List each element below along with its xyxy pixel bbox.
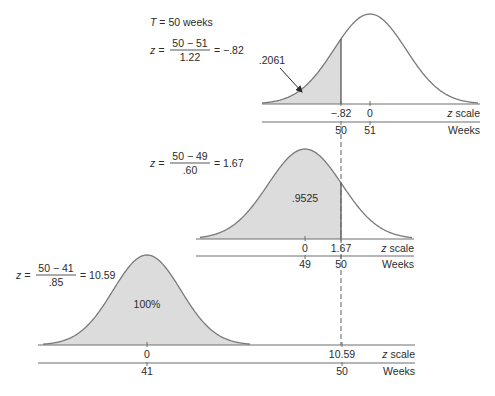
weeks-tick-label: 49 (299, 258, 311, 270)
normal-distribution-diagram: T = 50 weeks z =50 − 511.22= −.82z =50 −… (0, 0, 495, 396)
weeks-label: Weeks (448, 124, 480, 136)
z-formula: z =50 − 41.85= 10.59 (15, 262, 115, 288)
formula-result: = 10.59 (80, 269, 115, 281)
formula-denominator: .85 (49, 276, 64, 288)
shaded-probability-area (262, 39, 341, 104)
z-formulas: z =50 − 511.22= −.82z =50 − 49.60= 1.67z… (15, 37, 244, 288)
z-tick-label: 0 (144, 348, 150, 360)
deadline-label: T = 50 weeks (150, 16, 213, 28)
z-formula: z =50 − 511.22= −.82 (149, 37, 244, 63)
weeks-label: Weeks (383, 365, 415, 377)
formula-numerator: 50 − 41 (38, 262, 73, 274)
formula-numerator: 50 − 49 (172, 150, 207, 162)
arrow-icon (280, 68, 302, 92)
weeks-tick-label: 50 (336, 365, 348, 377)
formula-denominator: 1.22 (180, 51, 201, 63)
formula-numerator: 50 − 51 (172, 37, 207, 49)
formula-lhs: z = (149, 157, 164, 169)
probability-label: .2061 (259, 54, 285, 66)
weeks-label: Weeks (382, 258, 414, 270)
formula-denominator: .60 (183, 164, 198, 176)
formula-lhs: z = (149, 44, 164, 56)
z-scale-label: z scale (381, 348, 415, 360)
formula-result: = 1.67 (214, 157, 244, 169)
formula-result: = −.82 (214, 44, 244, 56)
distribution-panels: −.8205051z scaleWeeks.206101.674950z sca… (38, 14, 480, 377)
weeks-tick-label: 41 (141, 365, 153, 377)
formula-lhs: z = (15, 269, 30, 281)
probability-label: 100% (134, 298, 161, 310)
z-tick-label: −.82 (331, 107, 352, 119)
panel-top: −.8205051z scaleWeeks.2061 (259, 14, 480, 136)
normal-curve (262, 14, 478, 103)
z-scale-label: z scale (380, 242, 414, 254)
z-tick-label: 0 (302, 242, 308, 254)
z-tick-label: 0 (367, 107, 373, 119)
z-formula: z =50 − 49.60= 1.67 (149, 150, 244, 176)
probability-label: .9525 (292, 192, 318, 204)
weeks-tick-label: 51 (364, 124, 376, 136)
z-scale-label: z scale (446, 107, 480, 119)
z-tick-label: 10.59 (329, 348, 355, 360)
